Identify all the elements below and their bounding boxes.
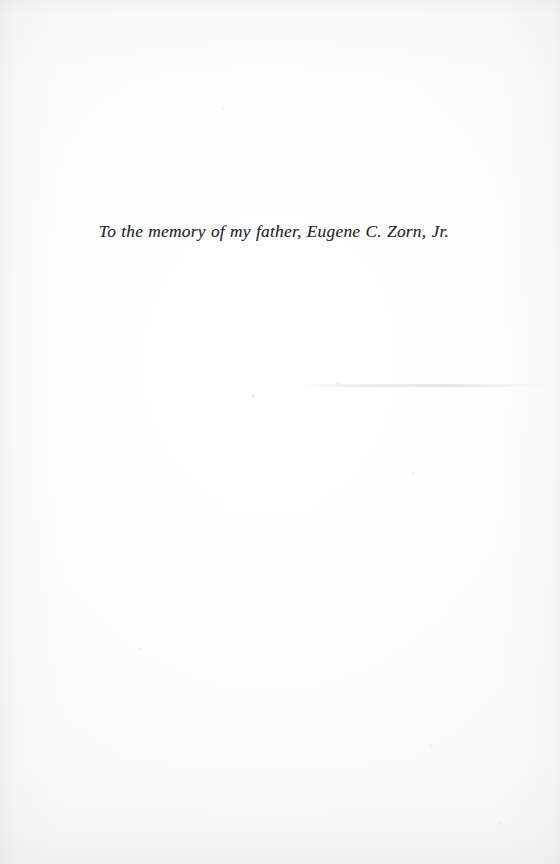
dedication-block: To the memory of my father, Eugene C. Zo… bbox=[0, 218, 560, 244]
scan-speck bbox=[412, 472, 415, 474]
scan-speck bbox=[139, 648, 141, 650]
scan-streak-artifact bbox=[300, 384, 550, 387]
dedication-text: To the memory of my father, Eugene C. Zo… bbox=[99, 218, 449, 244]
scan-speck bbox=[222, 108, 225, 110]
scan-speck bbox=[498, 822, 501, 825]
scan-speck bbox=[252, 394, 255, 397]
scan-speck bbox=[430, 745, 433, 747]
scan-speck bbox=[336, 382, 340, 385]
dedication-page: To the memory of my father, Eugene C. Zo… bbox=[0, 0, 560, 864]
